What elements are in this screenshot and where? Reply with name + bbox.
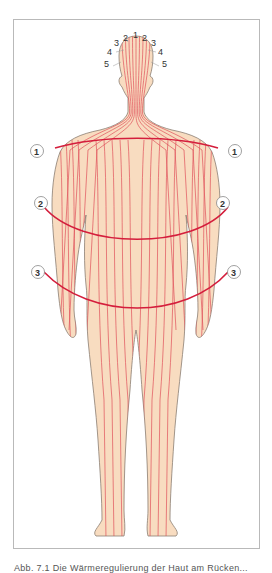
head-label: 3 — [114, 38, 119, 48]
head-label: 2 — [123, 33, 128, 43]
head-label: 3 — [151, 38, 156, 48]
head-label: 1 — [133, 30, 138, 40]
svg-text:3: 3 — [35, 268, 40, 278]
marker-1-right: 1 — [229, 145, 242, 158]
head-label: 5 — [104, 59, 109, 69]
svg-text:3: 3 — [231, 268, 236, 278]
head-label: 4 — [158, 47, 163, 57]
marker-3-left: 3 — [32, 266, 45, 279]
marker-1-left: 1 — [31, 145, 44, 158]
marker-3-right: 3 — [228, 266, 241, 279]
marker-2-right: 2 — [217, 197, 230, 210]
figure-caption: Abb. 7.1 Die Wärmeregulierung der Haut a… — [14, 563, 248, 573]
svg-text:2: 2 — [220, 199, 225, 209]
svg-text:1: 1 — [34, 147, 39, 157]
head-label: 2 — [142, 33, 147, 43]
head-label: 4 — [107, 47, 112, 57]
head-label: 5 — [162, 59, 167, 69]
svg-text:2: 2 — [38, 199, 43, 209]
svg-text:1: 1 — [232, 147, 237, 157]
marker-2-left: 2 — [35, 197, 48, 210]
